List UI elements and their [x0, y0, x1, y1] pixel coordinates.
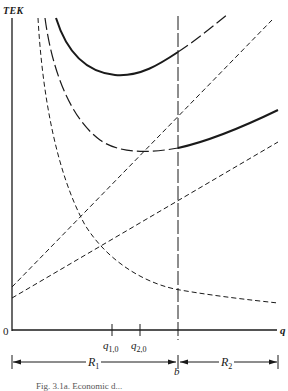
- origin-label: 0: [3, 326, 9, 337]
- upper-total-cost-u-curve-dashed: [178, 14, 228, 52]
- tick-label-q20: q2,0: [131, 340, 147, 354]
- range-r1-label: R1: [86, 356, 101, 371]
- r2-right-arrowhead: [269, 360, 277, 365]
- tick-label-q20-sub: 2,0: [137, 345, 147, 354]
- range-r2-sub: 2: [228, 362, 232, 371]
- upper-linear-cost-line: [12, 20, 272, 287]
- r1-left-arrowhead: [13, 360, 21, 365]
- upper-total-cost-u-curve-solid: [56, 18, 178, 75]
- y-axis-label: TEK: [3, 6, 23, 16]
- range-r2-label: R2: [219, 356, 234, 371]
- tick-label-q10-sub: 1,0: [109, 345, 119, 354]
- x-axis-label: q: [280, 325, 286, 336]
- lower-total-cost-u-curve-solid: [178, 110, 278, 148]
- r2-left-arrowhead: [180, 360, 188, 365]
- declining-hyperbola-cost: [38, 18, 278, 303]
- tick-label-q10: q1,0: [103, 340, 119, 354]
- boundary-b-label: b: [174, 366, 180, 377]
- lower-linear-cost-line: [12, 142, 278, 298]
- range-r1-sub: 1: [95, 362, 99, 371]
- figure-caption: Fig. 3.1a. Economic d...: [36, 381, 122, 391]
- r1-right-arrowhead: [168, 360, 176, 365]
